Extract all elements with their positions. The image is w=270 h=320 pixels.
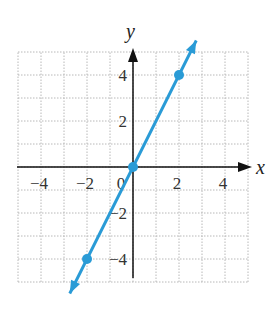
y-axis-label: y xyxy=(124,20,135,43)
x-tick-label: −2 xyxy=(76,174,94,193)
x-axis-arrow-icon xyxy=(238,162,252,172)
data-point xyxy=(82,254,92,264)
x-tick-label: 4 xyxy=(219,174,228,193)
x-tick-label: 2 xyxy=(173,174,182,193)
y-axis-arrow-icon xyxy=(128,48,138,62)
y-tick-label: −4 xyxy=(109,250,128,269)
y-tick-label: 4 xyxy=(119,66,128,85)
x-axis-label: x xyxy=(255,156,265,178)
data-point xyxy=(128,162,138,172)
arrow-up-icon xyxy=(186,41,196,55)
y-tick-label: 2 xyxy=(119,112,128,131)
data-point xyxy=(174,70,184,80)
coordinate-plane: x y −4−2024−4−224 xyxy=(0,0,270,320)
x-tick-label: −4 xyxy=(30,174,49,193)
